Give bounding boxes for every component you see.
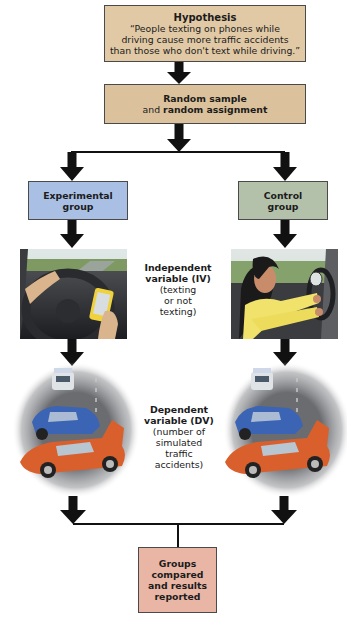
iv-detail-line-1: (texting [130, 284, 226, 295]
results-line-1: Groups [159, 558, 196, 569]
iv-title-line-1: Independent [130, 262, 226, 273]
arrow-down-icon [167, 62, 191, 84]
independent-variable-label: Independent variable (IV) (texting or no… [130, 262, 226, 317]
crash-scene-image-experimental [12, 362, 140, 498]
dependent-variable-label: Dependent variable (DV) (number of simul… [134, 404, 224, 470]
random-sample-line-1: Random sample [163, 93, 247, 104]
random-sample-line-2: and random assignment [143, 104, 268, 115]
control-group-line-2: group [268, 201, 299, 212]
split-connector-line [71, 151, 285, 153]
dv-title-line-2: variable (DV) [134, 415, 224, 426]
iv-title-line-2: variable (IV) [130, 273, 226, 284]
hypothesis-title: Hypothesis [174, 12, 237, 23]
hypothesis-line-2: driving cause more traffic accidents [121, 34, 288, 45]
experimental-group-line-2: group [63, 201, 94, 212]
result-connector-line [177, 523, 179, 547]
random-assignment-text: random assignment [163, 104, 267, 115]
results-box: Groups compared and results reported [138, 547, 217, 613]
results-line-3: and results [148, 580, 207, 591]
results-line-4: reported [155, 591, 201, 602]
control-group-box: Control group [238, 181, 328, 220]
random-sample-prefix: and [143, 104, 163, 115]
results-line-2: compared [151, 569, 203, 580]
random-sample-box: Random sample and random assignment [104, 84, 306, 124]
iv-detail-line-3: texting) [130, 306, 226, 317]
arrow-down-icon [60, 496, 86, 524]
dv-detail-line-4: accidents) [134, 459, 224, 470]
hypothesis-line-1: “People texting on phones while [130, 23, 280, 34]
arrow-down-icon [271, 496, 297, 524]
arrow-down-icon [273, 220, 297, 248]
dv-detail-line-1: (number of [134, 426, 224, 437]
arrow-down-icon [60, 220, 84, 248]
iv-detail-line-2: or not [130, 295, 226, 306]
hypothesis-box: Hypothesis “People texting on phones whi… [104, 5, 306, 62]
dv-title-line-1: Dependent [134, 404, 224, 415]
arrow-down-icon [167, 124, 191, 152]
arrow-down-icon [273, 152, 297, 181]
experimental-group-line-1: Experimental [43, 190, 113, 201]
dv-detail-line-3: traffic [134, 448, 224, 459]
hypothesis-line-3: than those who don't text while driving.… [110, 45, 300, 56]
crash-scene-image-control [223, 362, 347, 498]
experimental-group-box: Experimental group [28, 181, 128, 220]
merge-connector-line [73, 523, 284, 525]
arrow-down-icon [60, 152, 84, 181]
texting-driver-image [20, 249, 127, 339]
control-group-line-1: Control [264, 190, 302, 201]
attentive-driver-image [231, 249, 338, 339]
dv-detail-line-2: simulated [134, 437, 224, 448]
